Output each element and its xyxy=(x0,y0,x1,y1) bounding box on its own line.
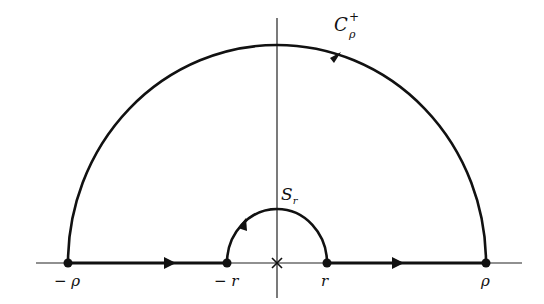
label-c: C xyxy=(334,14,348,35)
label-c-sup: + xyxy=(349,10,359,24)
label-c-sub: ρ xyxy=(349,28,355,41)
label-s: S xyxy=(281,184,293,204)
point-neg-r xyxy=(223,259,232,268)
contour-diagram xyxy=(0,0,544,304)
point-neg-rho xyxy=(64,259,73,268)
point-r xyxy=(323,259,332,268)
arrow-left-segment-icon xyxy=(164,257,176,269)
label-neg-rho: − ρ xyxy=(54,272,80,290)
label-neg-r: − r xyxy=(214,272,239,290)
label-s-sub: r xyxy=(293,195,298,206)
label-r: r xyxy=(321,272,328,290)
label-c-rho: C+ρ xyxy=(334,14,348,35)
label-s-r: Sr xyxy=(281,184,297,204)
arrow-right-segment-icon xyxy=(392,257,404,269)
point-rho xyxy=(482,259,491,268)
label-rho: ρ xyxy=(481,272,490,290)
